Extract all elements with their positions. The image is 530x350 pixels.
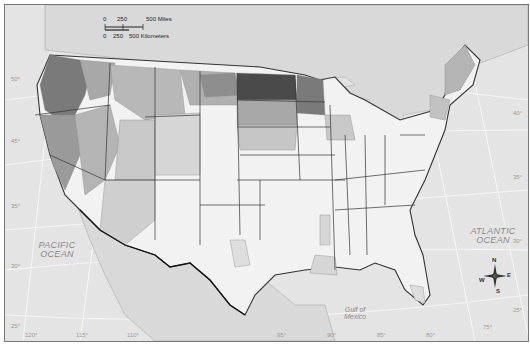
lon-label-120: 120°: [25, 332, 37, 338]
lat-label-50: 50°: [11, 76, 20, 82]
lon-label-110: 110°: [127, 332, 139, 338]
lat-label-right-35: 35°: [513, 174, 522, 180]
gulf-of-mexico-label: Gulf of Mexico: [335, 306, 375, 320]
lon-label-95: 95°: [277, 332, 286, 338]
scale-km-500: 500 Kilometers: [129, 33, 169, 39]
lat-label-30: 30°: [11, 263, 20, 269]
lat-label-35: 35°: [11, 203, 20, 209]
compass-e: E: [507, 272, 511, 278]
lat-label-45: 45°: [11, 138, 20, 144]
pacific-ocean-label: PACIFIC OCEAN: [27, 241, 87, 259]
lon-label-75: 75°: [483, 324, 492, 330]
lon-label-115: 115°: [76, 332, 88, 338]
lon-label-90: 90°: [327, 332, 336, 338]
scale-km-250: 250: [113, 33, 123, 39]
compass-w: W: [479, 277, 485, 283]
scale-miles-500: 500 Miles: [146, 16, 172, 22]
scale-miles-0: 0: [103, 16, 106, 22]
scale-km-0: 0: [103, 33, 106, 39]
compass-s: S: [496, 288, 500, 294]
lat-label-right-40: 40°: [513, 110, 522, 116]
lat-label-right-30: 30°: [513, 238, 522, 244]
scale-miles-250: 250: [117, 16, 127, 22]
lon-label-80: 80°: [426, 332, 435, 338]
lon-label-85: 85°: [377, 332, 386, 338]
lat-label-25: 25°: [11, 323, 20, 329]
map-frame: 0 250 500 Miles 0 250 500 Kilometers PAC…: [4, 4, 529, 342]
map-canvas: [5, 5, 528, 341]
compass-rose: [483, 264, 507, 288]
compass-n: N: [492, 257, 496, 263]
lat-label-right-25: 25°: [513, 307, 522, 313]
